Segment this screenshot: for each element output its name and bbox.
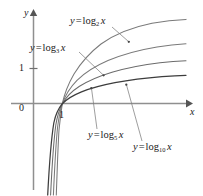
curve-label-log3-base: 3 — [56, 47, 59, 54]
curve-label-log3-fn: log — [43, 42, 56, 53]
curve-label-log10-base: 10 — [159, 146, 166, 153]
logarithm-graph-figure: y x 0 1 1 y=log2x y=log3x y=log5x y=log1… — [0, 0, 203, 196]
curve-label-log3-lhs: y — [30, 42, 35, 53]
curve-label-log3-operator: = — [35, 42, 43, 53]
curve-label-log2-lhs: y — [70, 15, 75, 26]
curve-label-log5-fn: log — [101, 129, 114, 140]
leader-line-log2 — [112, 27, 129, 42]
axes-group — [11, 9, 193, 190]
curve-label-log3-variable: x — [59, 42, 65, 53]
curves-group — [48, 19, 186, 195]
x-axis-label: x — [190, 107, 194, 117]
y-axis-label: y — [24, 8, 28, 18]
curve-label-log5-variable: x — [117, 129, 123, 140]
curve-label-log5-base: 5 — [114, 134, 117, 141]
origin-label: 0 — [19, 103, 24, 113]
curve-label-log2-fn: log — [83, 15, 96, 26]
leader-dot-log5 — [90, 87, 92, 89]
y-axis-arrowhead — [30, 9, 37, 16]
curve-label-log2-variable: x — [99, 15, 105, 26]
curve-label-log2-operator: = — [75, 15, 83, 26]
curve-label-log10-lhs: y — [133, 141, 138, 152]
curve-label-log10-variable: x — [166, 141, 172, 152]
leader-dot-log2 — [128, 41, 130, 43]
curve-label-log3: y=log3x — [30, 43, 65, 54]
leader-dot-log10 — [125, 84, 127, 86]
leader-line-log3 — [79, 52, 103, 75]
curve-label-log10: y=log10x — [133, 142, 172, 153]
curve-label-log10-fn: log — [146, 141, 159, 152]
leader-dot-log3 — [102, 74, 104, 76]
curve-label-log2-base: 2 — [96, 20, 99, 27]
curve-log3 — [53, 44, 186, 195]
leader-line-log5 — [92, 89, 98, 130]
x-tick-label-1: 1 — [59, 110, 64, 120]
curve-label-log2: y=log2x — [70, 16, 105, 27]
curve-label-log5-lhs: y — [88, 129, 93, 140]
curve-label-log10-operator: = — [138, 141, 146, 152]
curve-label-log5: y=log5x — [88, 130, 123, 141]
plot-canvas — [0, 0, 203, 196]
leader-line-log10 — [127, 85, 143, 141]
y-tick-label-1: 1 — [19, 63, 24, 73]
curve-label-log5-operator: = — [93, 129, 101, 140]
